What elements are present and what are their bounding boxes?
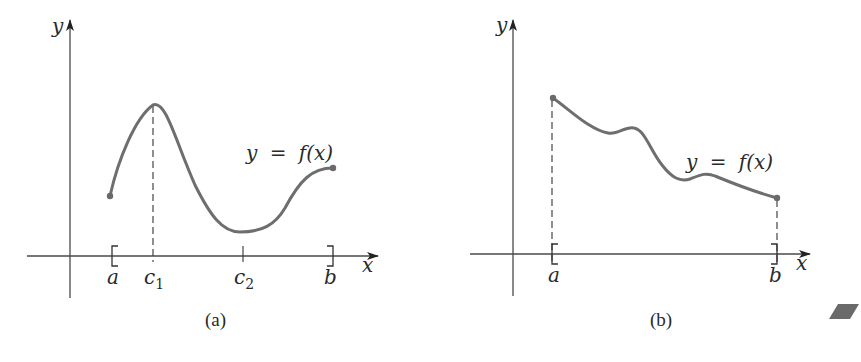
y-axis-label: y [51,14,64,38]
x-axis-label: x [362,253,373,277]
endpoint-marker [550,95,556,101]
endpoint-marker [774,195,780,201]
y-axis-label: y [495,13,508,37]
x-axis-label: x [796,251,807,275]
curve-label: y = f(x) [685,150,773,174]
function-curve-b [553,98,777,198]
curve-label: y = f(x) [245,141,333,165]
tick-label-b: b [769,263,782,287]
tick-label-a: a [107,265,119,289]
tick-label-b: b [324,265,337,289]
function-curve-a [110,105,333,232]
end-marker-icon [829,304,859,319]
tick-label-c1: c1 [144,265,164,292]
endpoint-marker [330,165,336,171]
panel-a: y x y = f(x) a c1 c2 b (a) [27,14,378,331]
caption-a: (a) [205,309,226,331]
tick-label-c2: c2 [234,265,254,292]
tick-label-a: a [548,263,560,287]
panel-b: y x y = f(x) a b (b) [470,13,810,331]
figure-canvas: y x y = f(x) a c1 c2 b (a) [0,0,861,362]
caption-b: (b) [650,309,672,331]
endpoint-marker [107,193,113,199]
